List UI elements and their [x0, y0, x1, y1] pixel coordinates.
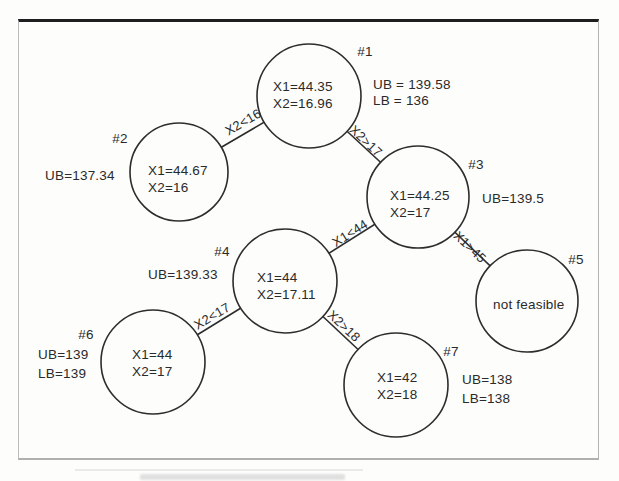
node-6-bounds: UB=139 LB=139 — [38, 345, 88, 383]
scan-artifact-line — [75, 469, 363, 471]
node-5-values: not feasible — [493, 296, 564, 313]
node-6-x2: X2=17 — [132, 363, 172, 380]
node-3-bounds: UB=139.5 — [482, 191, 544, 207]
node-1-id: #1 — [357, 43, 372, 60]
scanned-figure-page: #1 #2 #3 #4 #5 #6 #7 X1=44.35 X2=16.96 X… — [0, 0, 619, 481]
node-3-id: #3 — [468, 156, 483, 173]
node-2-id: #2 — [112, 130, 127, 147]
node-2-x2: X2=16 — [148, 179, 208, 196]
node-3-ub: UB=139.5 — [482, 191, 544, 207]
node-1-x1: X1=44.35 — [273, 78, 333, 95]
node-1-x2: X2=16.96 — [273, 95, 333, 112]
cutoff-caption-smudge — [140, 474, 345, 480]
node-1-lb: LB = 136 — [373, 93, 451, 109]
node-4-id: #4 — [214, 243, 229, 260]
node-6-id: #6 — [78, 326, 93, 343]
node-7-values: X1=42 X2=18 — [377, 369, 417, 403]
node-7-lb: LB=138 — [462, 389, 512, 408]
node-1-values: X1=44.35 X2=16.96 — [273, 78, 333, 112]
node-6-ub: UB=139 — [38, 345, 88, 364]
node-5-id: #5 — [568, 251, 583, 268]
node-4-x1: X1=44 — [257, 269, 316, 286]
node-2-ub: UB=137.34 — [45, 168, 115, 184]
node-3-x1: X1=44.25 — [390, 187, 450, 204]
node-4-values: X1=44 X2=17.11 — [257, 269, 316, 303]
node-2-values: X1=44.67 X2=16 — [148, 162, 208, 196]
node-6-x1: X1=44 — [132, 346, 172, 363]
node-5-status: not feasible — [493, 296, 564, 313]
node-1-ub: UB = 139.58 — [373, 77, 451, 93]
node-6-values: X1=44 X2=17 — [132, 346, 172, 380]
node-3-values: X1=44.25 X2=17 — [390, 187, 450, 221]
node-4-bounds: UB=139.33 — [148, 267, 218, 283]
node-2-x1: X1=44.67 — [148, 162, 208, 179]
node-7-x2: X2=18 — [377, 386, 417, 403]
node-4-x2: X2=17.11 — [257, 286, 316, 303]
node-7-id: #7 — [443, 343, 458, 360]
node-6-lb: LB=139 — [38, 364, 88, 383]
node-4-ub: UB=139.33 — [148, 267, 218, 283]
node-7-ub: UB=138 — [462, 370, 512, 389]
tree-diagram — [0, 0, 619, 481]
node-7-x1: X1=42 — [377, 369, 417, 386]
node-7-bounds: UB=138 LB=138 — [462, 370, 512, 408]
node-2-bounds: UB=137.34 — [45, 168, 115, 184]
node-1-bounds: UB = 139.58 LB = 136 — [373, 77, 451, 109]
node-3-x2: X2=17 — [390, 204, 450, 221]
